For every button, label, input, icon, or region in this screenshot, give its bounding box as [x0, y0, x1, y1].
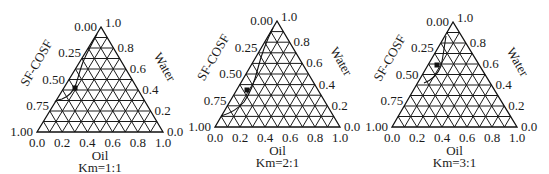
- right-axis-tick-label: 0.2: [508, 98, 524, 113]
- grid-line: [505, 117, 511, 128]
- grid-line: [221, 116, 227, 127]
- grid-line: [75, 59, 120, 133]
- left-axis-tick-label: 0.00: [74, 19, 97, 34]
- bottom-axis-tick-label: 0.0: [207, 130, 223, 145]
- right-axis-tick-label: 0.4: [142, 82, 159, 97]
- bottom-axis-tick-label: 0.0: [384, 130, 400, 145]
- grid-line: [455, 75, 486, 128]
- right-axis-tick-label: 0.6: [130, 61, 147, 76]
- grid-line: [246, 74, 278, 127]
- ternary-figure: 0.000.250.500.751.001.00.80.60.40.20.00.…: [0, 0, 549, 174]
- ternary-diagram-km-2-1: 0.000.250.500.751.001.00.80.60.40.20.00.…: [188, 9, 360, 170]
- right-axis-tick-label: 0.6: [306, 55, 323, 70]
- right-axis-tick-label: 0.4: [495, 77, 512, 92]
- bottom-axis-tick-label: 0.8: [484, 130, 500, 145]
- left-axis-tick-label: 0.25: [58, 45, 81, 60]
- right-axis-tick-label: 0.2: [331, 98, 347, 113]
- left-axis-tick-label: 0.50: [219, 66, 242, 81]
- right-axis-tick-label: 0.8: [470, 35, 486, 50]
- grid-line: [150, 122, 156, 133]
- data-point-marker: [435, 63, 440, 68]
- bottom-axis-tick-label: 0.8: [307, 130, 323, 145]
- bottom-axis-tick-label: 1.0: [509, 130, 525, 145]
- right-axis-title: Water: [151, 50, 180, 85]
- diagram-caption: Km=3:1: [433, 155, 476, 170]
- bottom-axis-tick-label: 0.0: [29, 135, 45, 150]
- right-axis-title: Water: [504, 45, 533, 80]
- data-point-marker: [245, 88, 250, 93]
- left-axis-tick-label: 0.50: [42, 72, 65, 87]
- left-axis-tick-label: 0.50: [396, 67, 419, 82]
- diagram-caption: Km=1:1: [78, 160, 121, 174]
- right-axis-title: Water: [327, 44, 356, 79]
- diagram-caption: Km=2:1: [256, 155, 299, 170]
- grid-line: [100, 80, 132, 133]
- bottom-axis-tick-label: 0.8: [130, 135, 146, 150]
- right-axis-tick-label: 1.0: [281, 9, 297, 24]
- grid-line: [258, 53, 302, 127]
- left-axis-tick-label: 0.00: [426, 14, 449, 29]
- right-axis-tick-label: 0.2: [155, 103, 171, 118]
- right-axis-tick-label: 1.0: [457, 10, 473, 25]
- right-axis-tick-label: 0.8: [117, 40, 133, 55]
- ternary-diagram-km-3-1: 0.000.250.500.751.001.00.80.60.40.20.00.…: [365, 10, 537, 170]
- grid-line: [423, 75, 455, 128]
- grid-line: [398, 117, 404, 128]
- right-axis-tick-label: 1.0: [105, 15, 121, 30]
- grid-line: [278, 74, 309, 127]
- right-axis-tick-label: 0.6: [483, 56, 500, 71]
- bottom-axis-tick-label: 0.2: [409, 130, 425, 145]
- left-axis-tick-label: 0.25: [235, 40, 258, 55]
- grid-line: [328, 116, 334, 127]
- left-axis-tick-label: 0.75: [381, 93, 404, 108]
- data-point-marker: [73, 86, 78, 91]
- bottom-axis-tick-label: 0.2: [54, 135, 70, 150]
- right-axis-tick-label: 0.8: [294, 34, 310, 49]
- left-axis-tick-label: 0.75: [26, 98, 49, 113]
- bottom-axis-tick-label: 0.2: [232, 130, 248, 145]
- ternary-diagram-km-1-1: 0.000.250.500.751.001.00.80.60.40.20.00.…: [10, 15, 183, 174]
- left-axis-tick-label: 0.25: [411, 40, 434, 55]
- grid-line: [43, 122, 49, 133]
- grid-line: [82, 59, 125, 133]
- bottom-axis-tick-label: 1.0: [332, 130, 348, 145]
- left-axis-tick-label: 0.75: [204, 93, 227, 108]
- left-axis-tick-label: 0.00: [250, 13, 273, 28]
- bottom-axis-tick-label: 1.0: [155, 135, 171, 150]
- right-axis-tick-label: 0.4: [319, 77, 336, 92]
